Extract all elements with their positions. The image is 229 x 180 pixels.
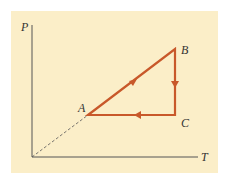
point-label-c: C <box>181 116 190 130</box>
y-axis-label: P <box>20 20 29 34</box>
point-label-b: B <box>181 43 189 57</box>
pt-diagram: P T A B C <box>0 0 229 180</box>
diagram-background <box>11 11 218 173</box>
point-label-a: A <box>77 101 86 115</box>
